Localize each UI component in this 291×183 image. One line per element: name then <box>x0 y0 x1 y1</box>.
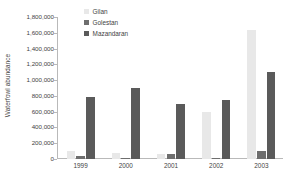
y-axis-title: Waterfowl abundance <box>0 0 16 170</box>
y-axis-tick-label: 1,800,000 <box>26 14 54 20</box>
bar-gilan-1999[interactable] <box>67 151 76 159</box>
chart-legend: GilanGolestanMazandaran <box>84 7 174 40</box>
waterfowl-abundance-bar-chart: Waterfowl abundance 0200,000400,000600,0… <box>0 0 291 183</box>
x-axis-tick-label: 2001 <box>164 162 178 169</box>
bar-group <box>247 17 275 159</box>
bar-golestan-1999[interactable] <box>76 156 85 159</box>
bar-mazandaran-2002[interactable] <box>222 100 231 159</box>
bar-gilan-2003[interactable] <box>247 30 256 159</box>
bar-mazandaran-2001[interactable] <box>176 104 185 159</box>
y-axis-tickmark <box>54 64 57 65</box>
bar-golestan-2000[interactable] <box>121 158 130 159</box>
y-axis-tick-label: 1,400,000 <box>26 45 54 51</box>
y-axis-tick-label: 400,000 <box>32 124 54 130</box>
y-axis-tick-label: 1,000,000 <box>26 77 54 83</box>
y-axis-title-text: Waterfowl abundance <box>5 53 12 116</box>
legend-swatch-icon <box>84 20 89 25</box>
y-axis-tickmark <box>54 33 57 34</box>
bar-mazandaran-2000[interactable] <box>131 88 140 159</box>
x-axis-tick-labels: 19992000200120022003 <box>57 162 283 176</box>
x-axis-tick-label: 2000 <box>119 162 133 169</box>
x-axis-tick-label: 2002 <box>209 162 223 169</box>
y-axis-tick-label: 600,000 <box>32 109 54 115</box>
legend-item-label: Gilan <box>93 9 108 15</box>
bar-golestan-2002[interactable] <box>212 158 221 159</box>
x-axis-tick-label: 2003 <box>254 162 268 169</box>
y-axis-tickmark <box>54 17 57 18</box>
y-axis-tickmark <box>54 112 57 113</box>
y-axis-tickmark <box>54 49 57 50</box>
bar-mazandaran-1999[interactable] <box>86 97 95 159</box>
y-axis-tick-label: 800,000 <box>32 93 54 99</box>
legend-swatch-icon <box>84 9 89 14</box>
bar-gilan-2000[interactable] <box>112 153 121 159</box>
bar-gilan-2002[interactable] <box>202 112 211 159</box>
bar-golestan-2003[interactable] <box>257 151 266 159</box>
legend-item-golestan[interactable]: Golestan <box>84 18 174 28</box>
x-axis-tick-label: 1999 <box>73 162 87 169</box>
legend-swatch-icon <box>84 31 89 36</box>
y-axis-tick-labels: 0200,000400,000600,000800,0001,000,0001,… <box>16 0 57 160</box>
bar-group <box>202 17 230 159</box>
legend-item-mazandaran[interactable]: Mazandaran <box>84 29 174 39</box>
legend-item-gilan[interactable]: Gilan <box>84 7 174 17</box>
y-axis-tick-label: 1,600,000 <box>26 30 54 36</box>
bar-gilan-2001[interactable] <box>157 154 166 159</box>
y-axis-tickmark <box>54 159 57 160</box>
y-axis-tickmark <box>54 143 57 144</box>
y-axis-tick-label: 1,200,000 <box>26 61 54 67</box>
legend-item-label: Mazandaran <box>93 31 129 37</box>
bar-golestan-2001[interactable] <box>167 154 176 159</box>
y-axis-tickmark <box>54 96 57 97</box>
bar-mazandaran-2003[interactable] <box>267 72 276 159</box>
y-axis-tickmark <box>54 127 57 128</box>
y-axis-tick-label: 200,000 <box>32 140 54 146</box>
y-axis-tickmark <box>54 80 57 81</box>
legend-item-label: Golestan <box>93 20 119 26</box>
